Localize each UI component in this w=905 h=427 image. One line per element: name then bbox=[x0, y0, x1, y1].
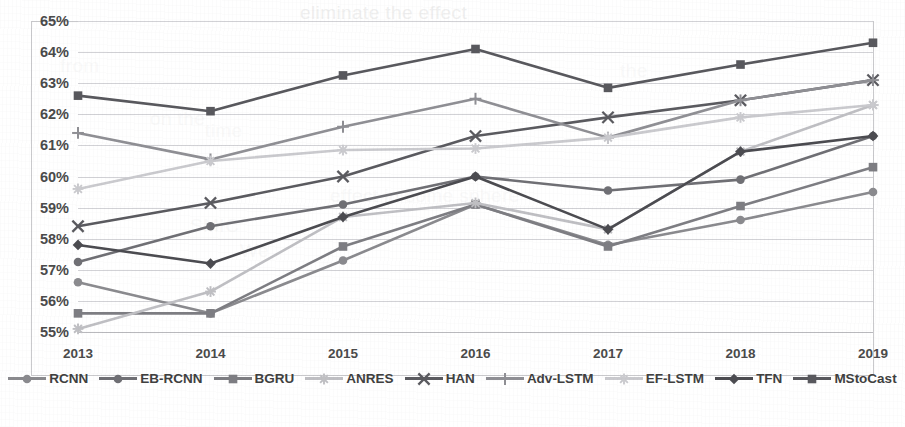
data-point-square bbox=[471, 45, 480, 54]
legend-swatch-square-icon bbox=[214, 372, 252, 386]
legend-item-label: RCNN bbox=[49, 371, 88, 386]
data-point-plus bbox=[499, 373, 511, 385]
x-axis-tick-label: 2014 bbox=[195, 346, 225, 361]
legend-item-label: BGRU bbox=[255, 371, 295, 386]
legend-item-HAN[interactable]: HAN bbox=[405, 371, 475, 386]
data-point-square bbox=[339, 242, 348, 251]
legend-item-label: Adv-LSTM bbox=[527, 371, 594, 386]
chart-plot-area: 65%64%63%62%61%60%59%58%57%56%55% 201320… bbox=[78, 21, 873, 332]
data-point-circle bbox=[206, 222, 215, 231]
legend-swatch-asterisk-icon bbox=[605, 372, 643, 386]
data-point-circle bbox=[339, 256, 348, 265]
data-point-square bbox=[604, 84, 613, 93]
data-point-asterisk bbox=[73, 184, 84, 195]
data-point-cross-x bbox=[418, 373, 429, 384]
data-point-circle bbox=[604, 186, 613, 195]
data-point-asterisk bbox=[338, 145, 349, 156]
data-point-circle bbox=[114, 374, 123, 383]
x-axis-tick-label: 2013 bbox=[63, 346, 93, 361]
gridline bbox=[78, 332, 873, 333]
data-point-diamond bbox=[470, 171, 481, 182]
y-axis-tick-label: 61% bbox=[40, 137, 69, 153]
legend-swatch-cross-x-icon bbox=[405, 372, 443, 386]
y-axis-tick-label: 58% bbox=[40, 231, 69, 247]
legend-marker-square-icon bbox=[804, 371, 820, 387]
data-point-plus bbox=[470, 93, 482, 105]
legend-swatch-square-icon bbox=[793, 372, 831, 386]
legend-marker-diamond-icon bbox=[726, 371, 742, 387]
legend-item-EB-RCNN[interactable]: EB-RCNN bbox=[99, 371, 202, 386]
data-point-asterisk bbox=[618, 373, 629, 384]
data-point-diamond bbox=[205, 258, 216, 269]
x-axis-tick-label: 2015 bbox=[328, 346, 358, 361]
data-point-circle bbox=[74, 278, 83, 287]
data-point-circle bbox=[74, 258, 83, 267]
legend-marker-cross-x-icon bbox=[416, 371, 432, 387]
y-axis-tick-label: 55% bbox=[40, 324, 69, 340]
legend-marker-square-icon bbox=[225, 371, 241, 387]
data-point-circle bbox=[736, 175, 745, 184]
y-axis-tick-label: 62% bbox=[40, 106, 69, 122]
data-point-square bbox=[228, 374, 237, 383]
data-point-asterisk bbox=[603, 132, 614, 143]
data-point-asterisk bbox=[735, 112, 746, 123]
y-axis-tick-label: 63% bbox=[40, 75, 69, 91]
data-point-square bbox=[74, 309, 83, 318]
legend-item-Adv-LSTM[interactable]: Adv-LSTM bbox=[486, 371, 594, 386]
data-point-circle bbox=[23, 374, 32, 383]
legend-marker-plus-icon bbox=[497, 371, 513, 387]
data-point-square bbox=[869, 163, 878, 172]
series-BGRU bbox=[74, 163, 878, 318]
legend-item-label: EF-LSTM bbox=[646, 371, 705, 386]
data-point-asterisk bbox=[868, 100, 879, 111]
y-axis-tick-label: 59% bbox=[40, 200, 69, 216]
x-axis-tick-label: 2018 bbox=[725, 346, 755, 361]
data-point-square bbox=[206, 309, 215, 318]
data-point-circle bbox=[869, 188, 878, 197]
x-axis-tick-label: 2017 bbox=[593, 346, 623, 361]
data-point-diamond bbox=[868, 131, 879, 142]
y-axis-tick-label: 65% bbox=[40, 13, 69, 29]
legend-item-label: MStoCast bbox=[834, 371, 896, 386]
legend-item-MStoCast[interactable]: MStoCast bbox=[793, 371, 896, 386]
legend-item-label: EB-RCNN bbox=[140, 371, 202, 386]
legend-swatch-circle-icon bbox=[99, 372, 137, 386]
legend-item-EF-LSTM[interactable]: EF-LSTM bbox=[605, 371, 705, 386]
data-point-square bbox=[736, 202, 745, 211]
data-point-square bbox=[808, 374, 817, 383]
series-layer bbox=[78, 21, 873, 332]
data-point-asterisk bbox=[319, 373, 330, 384]
data-point-asterisk bbox=[205, 156, 216, 167]
legend-item-BGRU[interactable]: BGRU bbox=[214, 371, 295, 386]
y-axis-tick-label: 64% bbox=[40, 44, 69, 60]
legend-item-TFN[interactable]: TFN bbox=[715, 371, 782, 386]
legend-marker-circle-icon bbox=[19, 371, 35, 387]
data-point-circle bbox=[736, 216, 745, 225]
data-point-square bbox=[604, 242, 613, 251]
x-axis-tick-label: 2016 bbox=[460, 346, 490, 361]
legend-item-label: HAN bbox=[446, 371, 475, 386]
legend-item-label: ANRES bbox=[346, 371, 393, 386]
legend-item-label: TFN bbox=[756, 371, 782, 386]
data-point-square bbox=[869, 38, 878, 47]
legend-marker-circle-icon bbox=[110, 371, 126, 387]
legend-swatch-plus-icon bbox=[486, 372, 524, 386]
data-point-asterisk bbox=[73, 323, 84, 334]
data-point-diamond bbox=[729, 373, 740, 384]
data-point-asterisk bbox=[205, 286, 216, 297]
data-point-square bbox=[339, 71, 348, 80]
y-axis-tick-label: 60% bbox=[40, 169, 69, 185]
data-point-square bbox=[736, 60, 745, 69]
data-point-asterisk bbox=[470, 198, 481, 209]
data-point-asterisk bbox=[470, 143, 481, 154]
legend-swatch-circle-icon bbox=[8, 372, 46, 386]
legend-swatch-asterisk-icon bbox=[305, 372, 343, 386]
x-axis-tick-label: 2019 bbox=[858, 346, 888, 361]
data-point-square bbox=[206, 107, 215, 116]
chart-legend: RCNNEB-RCNNBGRUANRESHANAdv-LSTMEF-LSTMTF… bbox=[31, 371, 874, 386]
legend-item-RCNN[interactable]: RCNN bbox=[8, 371, 88, 386]
legend-item-ANRES[interactable]: ANRES bbox=[305, 371, 393, 386]
legend-marker-asterisk-icon bbox=[616, 371, 632, 387]
data-point-plus bbox=[337, 121, 349, 133]
legend-swatch-diamond-icon bbox=[715, 372, 753, 386]
